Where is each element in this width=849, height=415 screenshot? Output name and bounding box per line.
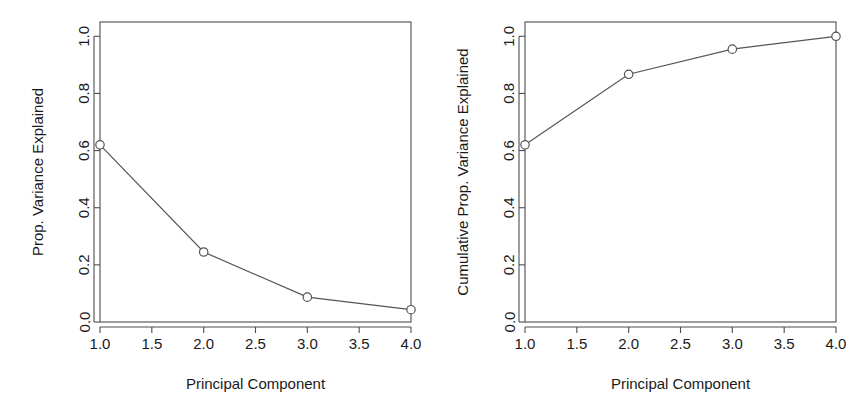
x-tick-label: 1.5 — [141, 335, 162, 352]
x-tick-label: 3.5 — [349, 335, 370, 352]
x-tick-label: 1.0 — [515, 335, 536, 352]
x-tick-label: 1.0 — [90, 335, 111, 352]
x-tick-label: 2.0 — [618, 335, 639, 352]
x-tick-label: 3.5 — [774, 335, 795, 352]
x-tick-label: 1.5 — [566, 335, 587, 352]
cumulative-variance-plot-svg: 0.00.20.40.60.81.01.01.52.02.53.03.54.0P… — [425, 0, 849, 415]
y-tick-label: 0.8 — [501, 83, 518, 104]
y-tick-label: 0.4 — [76, 197, 93, 218]
y-tick-label: 0.0 — [501, 312, 518, 333]
x-tick-label: 2.0 — [193, 335, 214, 352]
y-tick-label: 0.6 — [501, 140, 518, 161]
x-axis-title: Principal Component — [611, 375, 751, 392]
scree-plot-panel: 0.00.20.40.60.81.01.01.52.02.53.03.54.0P… — [0, 0, 424, 415]
data-point-marker[interactable] — [199, 248, 207, 256]
y-tick-label: 0.6 — [76, 140, 93, 161]
y-tick-label: 0.2 — [76, 254, 93, 275]
data-point-marker[interactable] — [832, 32, 840, 40]
data-line — [100, 145, 411, 310]
data-point-marker[interactable] — [624, 70, 632, 78]
plot-box-frame — [525, 22, 836, 322]
x-tick-label: 2.5 — [245, 335, 266, 352]
x-tick-label: 4.0 — [826, 335, 847, 352]
data-point-marker[interactable] — [407, 306, 415, 314]
cumulative-variance-plot-panel: 0.00.20.40.60.81.01.01.52.02.53.03.54.0P… — [425, 0, 849, 415]
scree-plot-svg: 0.00.20.40.60.81.01.01.52.02.53.03.54.0P… — [0, 0, 424, 415]
y-tick-label: 0.4 — [501, 197, 518, 218]
x-tick-label: 2.5 — [670, 335, 691, 352]
plot-box-frame — [100, 22, 411, 322]
data-point-marker[interactable] — [521, 141, 529, 149]
data-point-marker[interactable] — [96, 141, 104, 149]
data-line — [525, 36, 836, 145]
y-tick-label: 0.2 — [501, 254, 518, 275]
data-point-marker[interactable] — [728, 45, 736, 53]
data-point-marker[interactable] — [303, 293, 311, 301]
y-tick-label: 0.0 — [76, 312, 93, 333]
x-tick-label: 4.0 — [401, 335, 422, 352]
x-axis-title: Principal Component — [186, 375, 326, 392]
y-tick-label: 1.0 — [76, 26, 93, 47]
y-axis-title: Cumulative Prop. Variance Explained — [454, 48, 471, 295]
x-tick-label: 3.0 — [297, 335, 318, 352]
y-tick-label: 0.8 — [76, 83, 93, 104]
y-tick-label: 1.0 — [501, 26, 518, 47]
y-axis-title: Prop. Variance Explained — [29, 88, 46, 256]
figure-canvas: 0.00.20.40.60.81.01.01.52.02.53.03.54.0P… — [0, 0, 849, 415]
x-tick-label: 3.0 — [722, 335, 743, 352]
